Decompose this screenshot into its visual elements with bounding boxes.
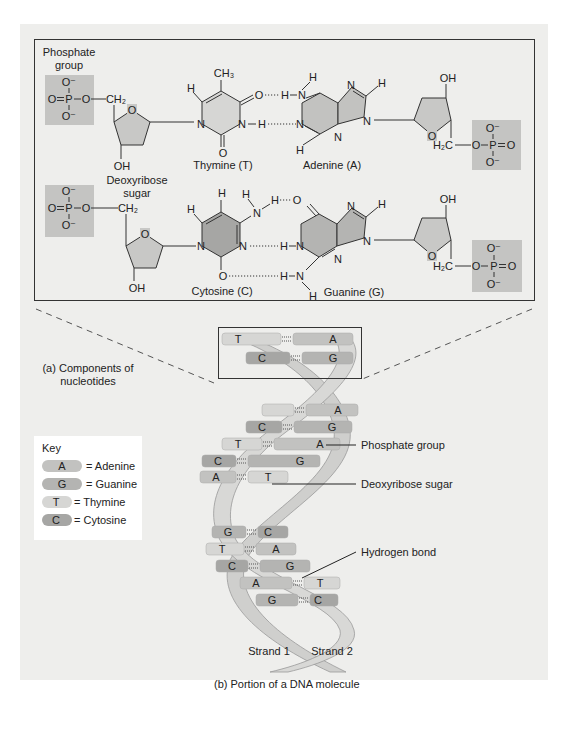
base-letter-left: G xyxy=(268,594,277,606)
svg-text:H: H xyxy=(280,270,288,282)
svg-text:O: O xyxy=(508,260,517,272)
svg-text:O: O xyxy=(82,93,91,105)
key-label: = Guanine xyxy=(86,478,137,490)
svg-text:O: O xyxy=(472,139,481,151)
base-letter-right: T xyxy=(265,471,272,483)
strand-1-label: Strand 1 xyxy=(248,645,290,657)
deoxyribose-sugar-3: O OH xyxy=(126,214,196,294)
key-letter: G xyxy=(58,478,67,490)
svg-text:N: N xyxy=(334,253,342,265)
base-letter-right: A xyxy=(334,404,342,416)
dna-figure: Phosphate group O⁻ O P O O⁻ CH₂ O OH Deo… xyxy=(0,0,568,730)
svg-text:H: H xyxy=(271,194,279,206)
nucleotide-components-border xyxy=(35,40,535,301)
base-left xyxy=(246,352,290,364)
svg-text:H: H xyxy=(187,82,195,94)
svg-text:N: N xyxy=(239,240,247,252)
svg-text:N: N xyxy=(296,270,304,282)
svg-text:N: N xyxy=(347,200,355,212)
base-letter-right: A xyxy=(329,333,337,345)
svg-text:O: O xyxy=(507,139,516,151)
svg-text:P: P xyxy=(489,139,496,151)
svg-text:N: N xyxy=(334,131,342,143)
svg-text:N: N xyxy=(296,240,304,252)
base-letter-right: G xyxy=(329,352,338,364)
caption-a-line2: nucleotides xyxy=(60,375,116,387)
hydrogen-bond-callout: Hydrogen bond xyxy=(361,546,436,558)
svg-text:O⁻: O⁻ xyxy=(62,219,77,231)
svg-text:H₂C: H₂C xyxy=(433,139,453,151)
thymine-structure: N N H CH₃ O O H xyxy=(187,67,266,159)
svg-text:OH: OH xyxy=(114,160,131,172)
base-letter-left: A xyxy=(212,471,220,483)
svg-text:H: H xyxy=(280,240,288,252)
svg-text:N: N xyxy=(347,79,355,91)
svg-text:O⁻: O⁻ xyxy=(487,242,502,254)
base-right xyxy=(306,404,358,416)
base-letter-left: C xyxy=(258,352,266,364)
svg-text:O: O xyxy=(219,147,228,159)
base-left xyxy=(222,333,281,345)
svg-text:H: H xyxy=(187,203,195,215)
svg-text:N: N xyxy=(296,118,304,130)
base-right xyxy=(294,421,352,433)
base-right xyxy=(293,333,353,345)
cytosine-structure: N N H H N H H O xyxy=(187,187,279,282)
svg-text:N: N xyxy=(363,235,371,247)
svg-text:H: H xyxy=(309,290,317,302)
svg-text:N: N xyxy=(238,118,246,130)
svg-text:O: O xyxy=(255,89,264,101)
caption-a-line1: (a) Components of xyxy=(42,362,134,374)
deoxyribose-label-line1: Deoxyribose xyxy=(106,174,167,186)
key-letter: A xyxy=(58,460,66,472)
svg-text:O: O xyxy=(472,260,481,272)
dna-helix xyxy=(214,334,356,672)
base-pair: CG xyxy=(246,421,352,433)
key-letter: C xyxy=(52,514,60,526)
key-label: = Adenine xyxy=(86,460,135,472)
svg-text:H: H xyxy=(378,198,386,210)
base-right xyxy=(258,526,288,538)
base-pair: CG xyxy=(216,560,310,572)
base-right xyxy=(302,352,353,364)
base-letter-left: C xyxy=(228,560,236,572)
svg-text:H₂C: H₂C xyxy=(433,260,453,272)
svg-text:O: O xyxy=(219,270,228,282)
svg-text:N: N xyxy=(298,89,306,101)
svg-text:P: P xyxy=(65,93,72,105)
base-letter-left: T xyxy=(235,333,242,345)
svg-text:O: O xyxy=(128,104,137,116)
svg-text:CH₃: CH₃ xyxy=(214,67,234,79)
cytosine-label: Cytosine (C) xyxy=(191,285,252,297)
base-letter-right: G xyxy=(328,421,337,433)
adenine-structure: N H N N N N H H xyxy=(296,71,414,156)
key-item: G= Guanine xyxy=(42,478,137,490)
svg-text:O: O xyxy=(82,202,91,214)
base-right xyxy=(274,438,340,450)
base-letter-right: C xyxy=(314,594,322,606)
zoom-line-right xyxy=(360,309,532,380)
key-item: C= Cytosine xyxy=(42,514,126,526)
base-letter-right: C xyxy=(264,526,272,538)
base-pair: CG xyxy=(202,455,320,467)
svg-text:H: H xyxy=(309,71,317,83)
deoxyribose-sugar-2: O OH H₂C xyxy=(414,72,471,151)
strand-2-label: Strand 2 xyxy=(311,645,353,657)
base-letter-left: T xyxy=(219,543,226,555)
base-left xyxy=(262,404,294,416)
base-left xyxy=(256,594,298,606)
svg-text:N: N xyxy=(197,118,205,130)
key-letter: T xyxy=(53,496,60,508)
base-letter-left: G xyxy=(224,526,233,538)
base-letter-left: C xyxy=(258,421,266,433)
svg-text:P: P xyxy=(490,260,497,272)
svg-text:H: H xyxy=(242,188,250,200)
svg-text:H: H xyxy=(218,187,226,199)
svg-text:O: O xyxy=(48,93,57,105)
key-title: Key xyxy=(42,442,61,454)
base-right xyxy=(248,455,320,467)
svg-text:OH: OH xyxy=(440,72,457,84)
base-pair: TA xyxy=(222,333,353,345)
deoxyribose-sugar-1: O OH xyxy=(114,104,194,172)
svg-text:O⁻: O⁻ xyxy=(487,278,502,290)
